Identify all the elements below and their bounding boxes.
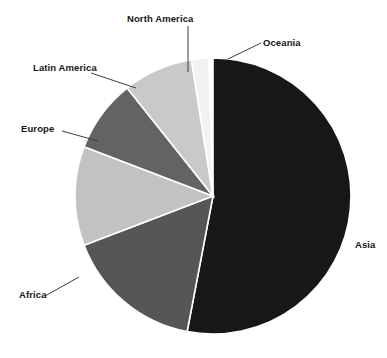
pie-chart-figure: North America Oceania Latin America Euro… bbox=[0, 0, 387, 358]
pie-label-latin-america: Latin America bbox=[33, 62, 97, 73]
pie-label-oceania: Oceania bbox=[263, 37, 301, 48]
leader-line-africa bbox=[45, 277, 79, 296]
pie-label-africa: Africa bbox=[19, 289, 47, 300]
pie-label-asia: Asia bbox=[355, 239, 375, 250]
pie-label-europe: Europe bbox=[21, 123, 54, 134]
leader-line-latin-america bbox=[91, 73, 136, 88]
pie-slices-group bbox=[75, 58, 351, 334]
pie-chart-canvas bbox=[0, 0, 387, 358]
leader-line-oceania bbox=[228, 43, 261, 59]
pie-label-north-america: North America bbox=[127, 13, 193, 24]
